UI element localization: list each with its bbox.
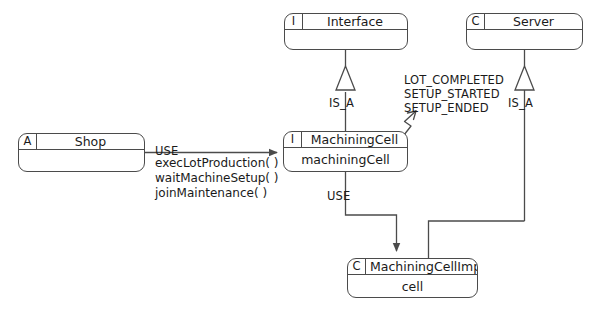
event-list-item: LOT_COMPLETED: [404, 73, 504, 87]
uml-box-machining-cell-impl-title: MachiningCellImpl: [366, 259, 478, 274]
uml-box-shop-stereotype: A: [19, 134, 37, 149]
uml-box-shop-title: Shop: [37, 134, 144, 149]
uml-box-machining-cell-impl[interactable]: C MachiningCellImpl cell: [347, 258, 478, 298]
is-a-server-line-elbow: [429, 221, 525, 258]
uml-diagram-canvas: I Interface C Server A Shop I MachiningC…: [0, 0, 601, 312]
event-list: LOT_COMPLETED SETUP_STARTED SETUP_ENDED: [404, 73, 504, 115]
uml-box-machining-cell-header: I MachiningCell: [284, 132, 407, 148]
uml-box-interface-attribute: [285, 30, 407, 49]
uml-box-server-title: Server: [485, 14, 582, 29]
event-list-item: SETUP_ENDED: [404, 101, 504, 115]
is-a-server-triangle: [515, 66, 534, 90]
uml-box-server-stereotype: C: [467, 14, 485, 29]
uml-box-interface-stereotype: I: [285, 14, 303, 29]
shop-method-item: execLotProduction( ): [155, 156, 279, 171]
uml-box-interface[interactable]: I Interface: [284, 13, 408, 50]
uml-box-server-attribute: [467, 30, 582, 49]
uml-box-machining-cell-stereotype: I: [284, 132, 302, 147]
relation-label-is-a-server: IS_A: [508, 96, 533, 111]
uml-box-machining-cell-title: MachiningCell: [302, 132, 407, 147]
shop-method-item: waitMachineSetup( ): [155, 171, 279, 186]
uml-box-server[interactable]: C Server: [466, 13, 583, 50]
uml-box-machining-cell-impl-header: C MachiningCellImpl: [348, 259, 477, 275]
shop-method-list: execLotProduction( ) waitMachineSetup( )…: [155, 156, 279, 201]
uml-box-machining-cell-impl-stereotype: C: [348, 259, 366, 274]
uml-box-interface-title: Interface: [303, 14, 407, 29]
relation-label-is-a-interface: IS_A: [329, 96, 354, 111]
uml-box-machining-cell-attribute: machiningCell: [284, 148, 407, 171]
uml-box-shop-header: A Shop: [19, 134, 144, 150]
is-a-interface-triangle: [336, 66, 355, 90]
uml-box-interface-header: I Interface: [285, 14, 407, 30]
use-cell-to-impl-line: [346, 172, 397, 251]
uml-box-shop[interactable]: A Shop: [18, 133, 145, 172]
uml-box-machining-cell[interactable]: I MachiningCell machiningCell: [283, 131, 408, 172]
uml-box-machining-cell-impl-attribute: cell: [348, 275, 477, 297]
uml-box-server-header: C Server: [467, 14, 582, 30]
relation-label-use-cell-to-impl: USE: [327, 189, 351, 204]
uml-box-shop-attribute: [19, 150, 144, 171]
shop-method-item: joinMaintenance( ): [155, 186, 279, 201]
event-list-item: SETUP_STARTED: [404, 87, 504, 101]
